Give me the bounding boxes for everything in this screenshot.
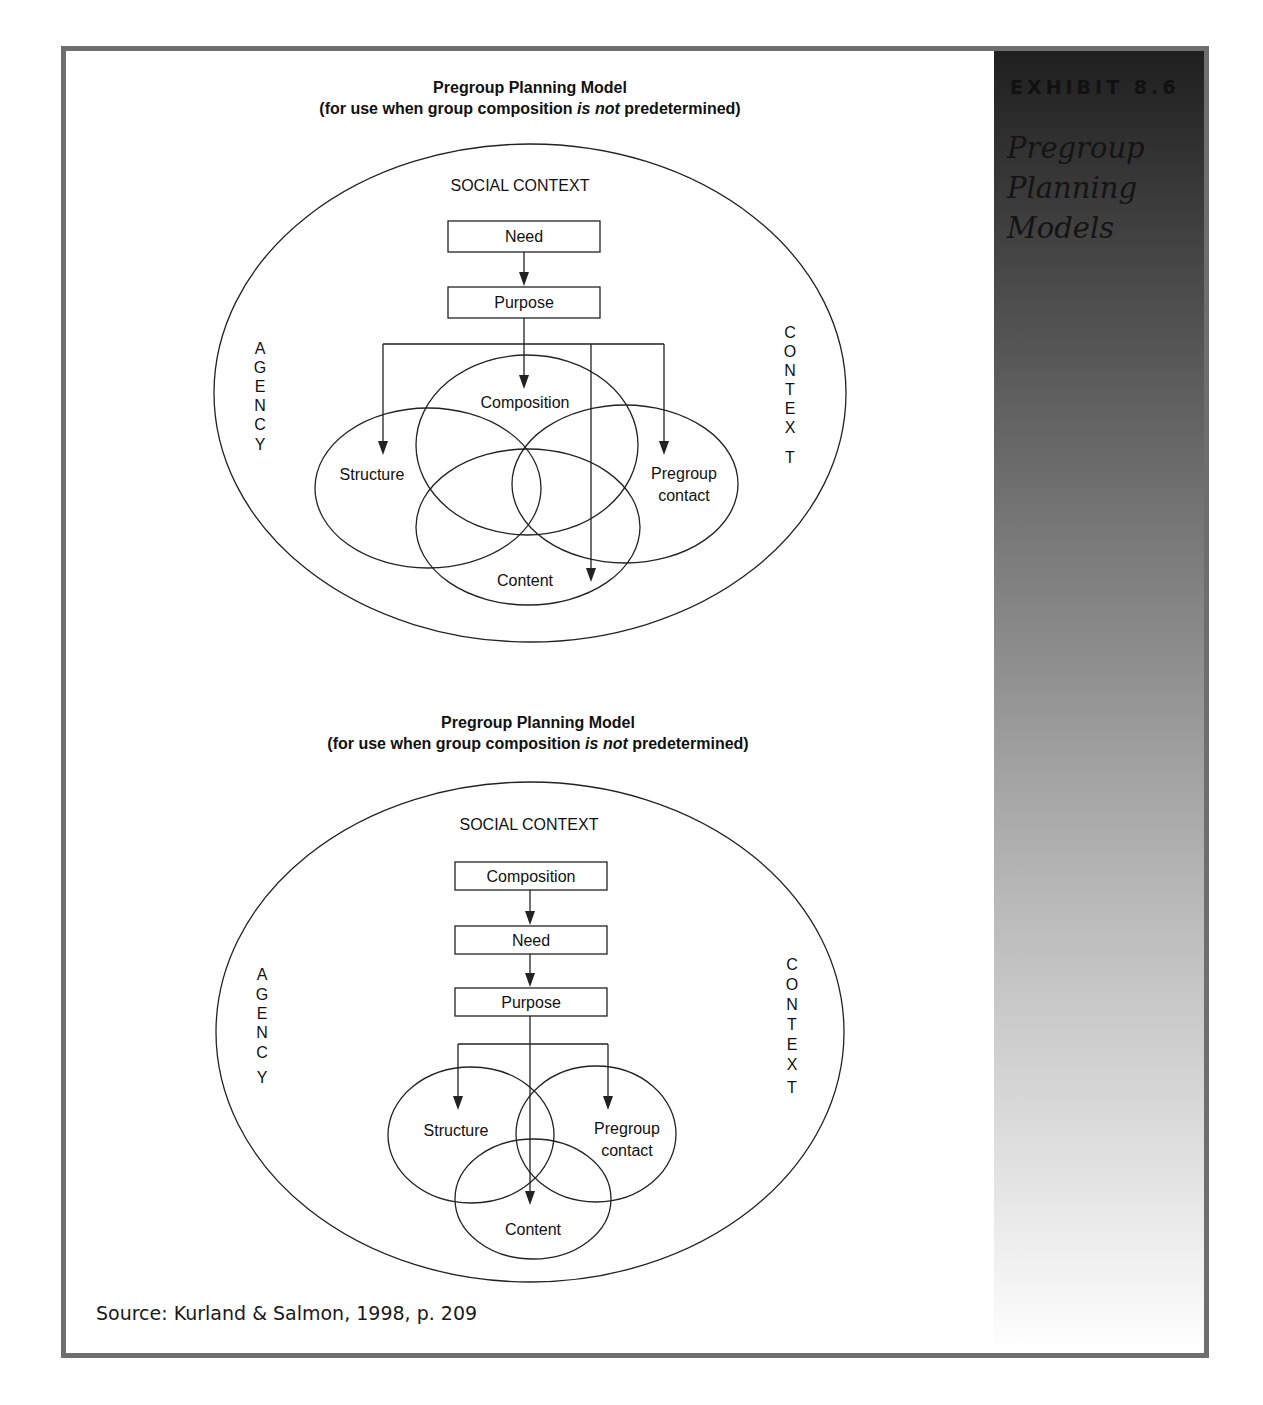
structure-label: Structure	[340, 466, 405, 483]
agency-letter: A	[255, 340, 266, 357]
pregroup-contact-ellipse	[512, 405, 738, 563]
context-letter: E	[787, 1036, 798, 1053]
context-letter: T	[785, 449, 795, 466]
social-context-ellipse	[214, 144, 846, 642]
purpose-label: Purpose	[501, 994, 561, 1011]
source-citation: Source: Kurland & Salmon, 1998, p. 209	[96, 1302, 477, 1324]
context-letter: N	[784, 362, 796, 379]
need-label: Need	[512, 932, 550, 949]
arrowhead-icon	[586, 568, 596, 582]
agency-vertical-label: A G E N C Y	[256, 966, 268, 1086]
context-letter: O	[784, 343, 796, 360]
diagrams-canvas: SOCIAL CONTEXT Need Purpose Composition …	[0, 0, 1263, 1405]
contact-label: contact	[601, 1142, 653, 1159]
diagram-2-labels: SOCIAL CONTEXT Composition Need Purpose …	[256, 816, 798, 1238]
agency-letter: Y	[255, 436, 266, 453]
agency-vertical-label: A G E N C Y	[254, 340, 266, 453]
agency-letter: C	[256, 1044, 268, 1061]
contact-label: contact	[658, 487, 710, 504]
context-letter: T	[787, 1016, 797, 1033]
arrowhead-icon	[525, 911, 535, 925]
purpose-label: Purpose	[494, 294, 554, 311]
agency-letter: E	[255, 378, 266, 395]
structure-ellipse	[315, 408, 541, 568]
content-label: Content	[505, 1221, 562, 1238]
agency-letter: G	[254, 359, 266, 376]
context-letter: T	[785, 381, 795, 398]
arrowhead-icon	[659, 441, 669, 455]
content-ellipse	[455, 1139, 611, 1259]
social-context-label: SOCIAL CONTEXT	[451, 177, 590, 194]
context-letter: O	[786, 976, 798, 993]
context-letter: C	[786, 956, 798, 973]
agency-letter: C	[254, 416, 266, 433]
agency-letter: N	[256, 1024, 268, 1041]
context-letter: X	[785, 419, 796, 436]
arrowhead-icon	[519, 375, 529, 389]
context-letter: E	[785, 400, 796, 417]
arrowhead-icon	[519, 272, 529, 286]
context-letter: C	[784, 324, 796, 341]
diagram-2	[216, 782, 844, 1282]
context-letter: N	[786, 996, 798, 1013]
agency-letter: G	[256, 986, 268, 1003]
composition-label: Composition	[487, 868, 576, 885]
pregroup-label: Pregroup	[594, 1120, 660, 1137]
pregroup-label: Pregroup	[651, 465, 717, 482]
agency-letter: N	[254, 397, 266, 414]
arrowhead-icon	[453, 1096, 463, 1110]
need-label: Need	[505, 228, 543, 245]
arrowhead-icon	[603, 1096, 613, 1110]
diagram-1	[214, 144, 846, 642]
context-letter: T	[787, 1079, 797, 1096]
context-letter: X	[787, 1056, 798, 1073]
arrowhead-icon	[378, 441, 388, 455]
arrowhead-icon	[525, 973, 535, 987]
agency-letter: Y	[257, 1069, 268, 1086]
composition-label: Composition	[481, 394, 570, 411]
structure-label: Structure	[424, 1122, 489, 1139]
arrowhead-icon	[525, 1191, 535, 1205]
agency-letter: E	[257, 1005, 268, 1022]
social-context-label: SOCIAL CONTEXT	[460, 816, 599, 833]
context-vertical-label: C O N T E X T	[786, 956, 798, 1096]
agency-letter: A	[257, 966, 268, 983]
content-label: Content	[497, 572, 554, 589]
context-vertical-label: C O N T E X T	[784, 324, 796, 466]
